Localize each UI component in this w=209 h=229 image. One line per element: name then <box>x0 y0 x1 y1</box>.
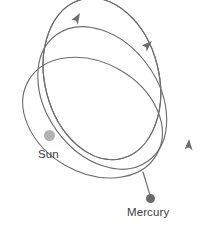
orbit-ellipse-1 <box>1 33 184 202</box>
direction-arrow-group <box>71 11 193 150</box>
arrow-right-icon <box>185 139 194 151</box>
orbit-ellipse-4 <box>27 0 177 172</box>
mercury-label: Mercury <box>127 206 169 218</box>
mercury-marker <box>146 194 155 203</box>
orbit-svg <box>0 0 209 229</box>
mercury-connector-line <box>143 172 150 195</box>
orbit-ellipse-group <box>0 0 198 204</box>
orbit-ellipse-2 <box>11 2 193 194</box>
arrow-top-left-icon <box>71 11 84 25</box>
sun-label: Sun <box>38 148 59 160</box>
precession-diagram: Sun Mercury <box>0 0 209 229</box>
orbit-ellipse-3 <box>27 0 177 172</box>
sun-marker <box>44 130 55 141</box>
